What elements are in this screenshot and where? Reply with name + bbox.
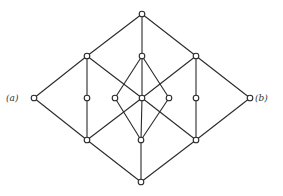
node-m1 [84,95,90,101]
edge-b-l3 [196,98,250,140]
node-u1 [84,53,90,59]
node-m3 [166,95,172,101]
node-u3 [193,53,199,59]
edge-a-l1 [34,98,87,140]
node-top [139,11,145,17]
node-b [247,95,253,101]
node-a [31,95,37,101]
node-bottom [138,179,144,185]
edge-c-l3 [142,98,196,140]
edge-u1-c [87,56,142,98]
node-m4 [193,95,199,101]
node-c [139,95,145,101]
node-l1 [84,137,90,143]
node-u2 [139,53,145,59]
edge-u1-a [34,56,87,98]
node-l2 [138,137,144,143]
edge-u2-m3 [142,56,169,98]
edge-m2-l2 [115,98,141,140]
edge-top-u3 [142,14,196,56]
lattice-diagram: (a) (b) [0,0,283,196]
node-l3 [193,137,199,143]
edge-u3-c [142,56,196,98]
node-m2 [112,95,118,101]
label-b: (b) [255,93,268,103]
edge-top-u1 [87,14,142,56]
edge-u2-m2 [115,56,142,98]
edge-l1-bottom [87,140,141,182]
edge-c-l2 [141,98,142,140]
edge-u3-b [196,56,250,98]
edge-l3-bottom [141,140,196,182]
edge-m3-l2 [141,98,169,140]
label-a: (a) [6,93,19,103]
edge-c-l1 [87,98,142,140]
